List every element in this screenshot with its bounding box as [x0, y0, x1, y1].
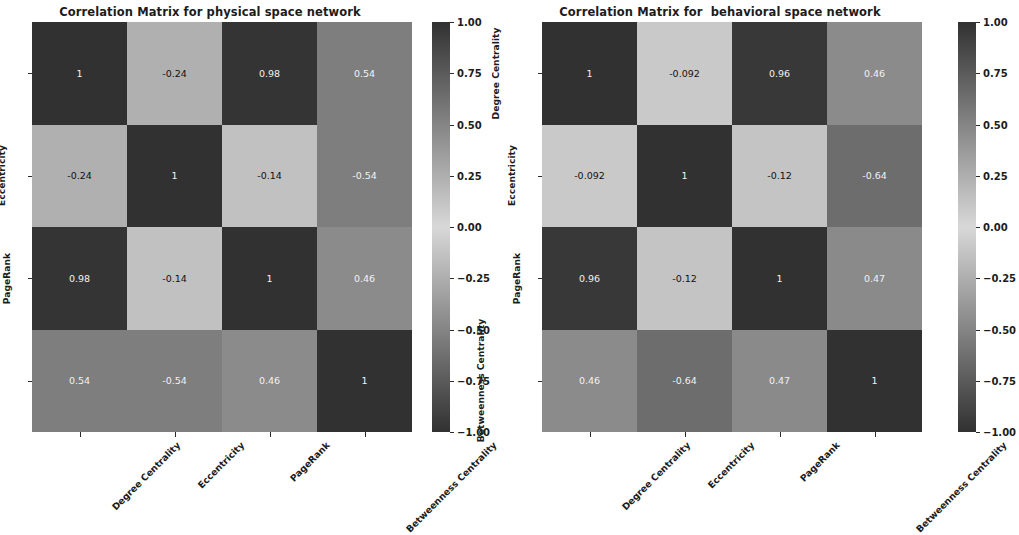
heatmap-cell: 1	[32, 22, 127, 125]
x-axis-tick-label: Eccentricity	[195, 439, 246, 490]
heatmap-cell-value: -0.14	[257, 171, 282, 181]
heatmap-cell: 0.98	[222, 22, 317, 125]
heatmap-cell-value: 0.54	[69, 376, 90, 386]
y-axis-label-text: Eccentricity	[506, 145, 517, 206]
x-axis-tick-mark	[270, 432, 271, 437]
colorbar-tick-mark	[976, 73, 980, 74]
heatmap-cell-value: 1	[681, 171, 687, 181]
x-axis-tick-mark	[365, 432, 366, 437]
heatmap-grid: 1-0.240.980.54-0.241-0.14-0.540.98-0.141…	[32, 22, 412, 432]
heatmap-cell-value: 0.47	[864, 274, 885, 284]
heatmap-cell-value: 0.46	[579, 376, 600, 386]
heatmap-cell: -0.14	[127, 227, 222, 330]
colorbar: 1.000.750.500.250.00−0.25−0.50−0.75−1.00	[958, 22, 1019, 432]
heatmap-cell: 0.54	[317, 22, 412, 125]
heatmap-cell-value: 1	[76, 69, 82, 79]
x-axis-tick-mark	[685, 432, 686, 437]
heatmap-cell-value: -0.54	[162, 376, 187, 386]
colorbar-tick-label: 0.75	[457, 68, 482, 79]
heatmap-cell-value: -0.24	[162, 69, 187, 79]
heatmap-cell-value: -0.54	[352, 171, 377, 181]
colorbar-tick-label: −0.25	[983, 273, 1016, 284]
x-axis-tick-label: PageRank	[287, 439, 331, 483]
heatmap-cell-value: 1	[361, 376, 367, 386]
heatmap-cell-value: 1	[266, 274, 272, 284]
heatmap-cell-value: 0.96	[769, 69, 790, 79]
heatmap-cell: 1	[222, 227, 317, 330]
heatmap-cell: 1	[542, 22, 637, 125]
x-axis-tick-mark	[175, 432, 176, 437]
x-axis-tick-label: Betweenness Centrality	[913, 439, 1008, 534]
heatmap-cell: -0.12	[732, 125, 827, 228]
heatmap-grid: 1-0.0920.960.46-0.0921-0.12-0.640.96-0.1…	[542, 22, 922, 432]
y-axis-label-text: Betweenness Centrality	[475, 319, 486, 442]
colorbar-tick-mark	[450, 432, 454, 433]
x-axis-labels: Degree CentralityEccentricityPageRankBet…	[32, 438, 502, 535]
heatmap-cell: 1	[317, 330, 412, 433]
heatmap-cell-value: -0.24	[67, 171, 92, 181]
y-axis-label-text: PageRank	[511, 253, 522, 304]
heatmap-cell: 1	[637, 125, 732, 228]
colorbar-tick-mark	[976, 381, 980, 382]
heatmap-cell: -0.54	[127, 330, 222, 433]
x-axis-tick-label: Degree Centrality	[109, 439, 182, 512]
y-axis-label-text: Degree Centrality	[491, 27, 502, 119]
colorbar-tick-label: 0.00	[457, 222, 482, 233]
colorbar-tick-label: −1.00	[983, 427, 1016, 438]
x-axis-tick-label: Eccentricity	[705, 439, 756, 490]
heatmap-cell: 0.47	[732, 330, 827, 433]
heatmap-cell-value: 0.46	[354, 274, 375, 284]
heatmap-cell-value: 0.54	[354, 69, 375, 79]
colorbar-tick-mark	[976, 432, 980, 433]
heatmap-cell: -0.24	[32, 125, 127, 228]
colorbar-tick-mark	[450, 278, 454, 279]
heatmap-cell: -0.092	[637, 22, 732, 125]
y-axis-labels: Degree CentralityEccentricityPageRankBet…	[0, 22, 32, 432]
y-axis-label-text: Eccentricity	[0, 145, 7, 206]
chart-panel-behavioral: Correlation Matrix for behavioral space …	[510, 0, 1019, 535]
x-axis-tick-mark	[780, 432, 781, 437]
colorbar-tick-label: 0.25	[457, 170, 482, 181]
colorbar-tick-label: −0.50	[983, 324, 1016, 335]
chart-panel-physical: Correlation Matrix for physical space ne…	[0, 0, 509, 535]
colorbar-tick-mark	[976, 176, 980, 177]
heatmap-cell: 0.54	[32, 330, 127, 433]
x-axis-tick-mark	[590, 432, 591, 437]
colorbar-tick-mark	[450, 176, 454, 177]
colorbar-tick-label: 0.25	[983, 170, 1008, 181]
colorbar-tick-mark	[976, 22, 980, 23]
colorbar-tick-mark	[450, 73, 454, 74]
heatmap-cell-value: 0.96	[579, 274, 600, 284]
colorbar-tick-label: 1.00	[983, 17, 1008, 28]
heatmap-cell: -0.24	[127, 22, 222, 125]
colorbar-tick-mark	[450, 227, 454, 228]
heatmap-cell: 0.96	[542, 227, 637, 330]
x-axis-tick-label: Betweenness Centrality	[403, 439, 498, 534]
heatmap-cell: 0.46	[827, 22, 922, 125]
chart-title: Correlation Matrix for physical space ne…	[0, 5, 420, 19]
heatmap-cell: -0.54	[317, 125, 412, 228]
heatmap-cell-value: -0.14	[162, 274, 187, 284]
y-axis-labels: Degree CentralityEccentricityPageRankBet…	[510, 22, 542, 432]
heatmap-cell-value: 0.46	[259, 376, 280, 386]
colorbar-tick-label: 0.75	[983, 68, 1008, 79]
heatmap-cell-value: -0.12	[672, 274, 697, 284]
colorbar-tick-label: −0.25	[457, 273, 490, 284]
heatmap-cell-value: 1	[171, 171, 177, 181]
x-axis-labels: Degree CentralityEccentricityPageRankBet…	[542, 438, 1012, 535]
heatmap-cell: -0.64	[637, 330, 732, 433]
colorbar-tick-mark	[976, 330, 980, 331]
colorbar-gradient	[432, 22, 450, 432]
colorbar-tick-label: −0.75	[983, 375, 1016, 386]
heatmap-cell: -0.092	[542, 125, 637, 228]
heatmap-cell-value: 1	[586, 69, 592, 79]
heatmap-cell-value: 0.47	[769, 376, 790, 386]
figure-canvas: Correlation Matrix for physical space ne…	[0, 0, 1019, 535]
colorbar-tick-mark	[450, 125, 454, 126]
heatmap-cell-value: 1	[871, 376, 877, 386]
heatmap-cell: 0.98	[32, 227, 127, 330]
x-axis-tick-label: PageRank	[797, 439, 841, 483]
colorbar-tick-mark	[976, 227, 980, 228]
colorbar-tick-mark	[976, 278, 980, 279]
colorbar-tick-label: 0.50	[457, 119, 482, 130]
